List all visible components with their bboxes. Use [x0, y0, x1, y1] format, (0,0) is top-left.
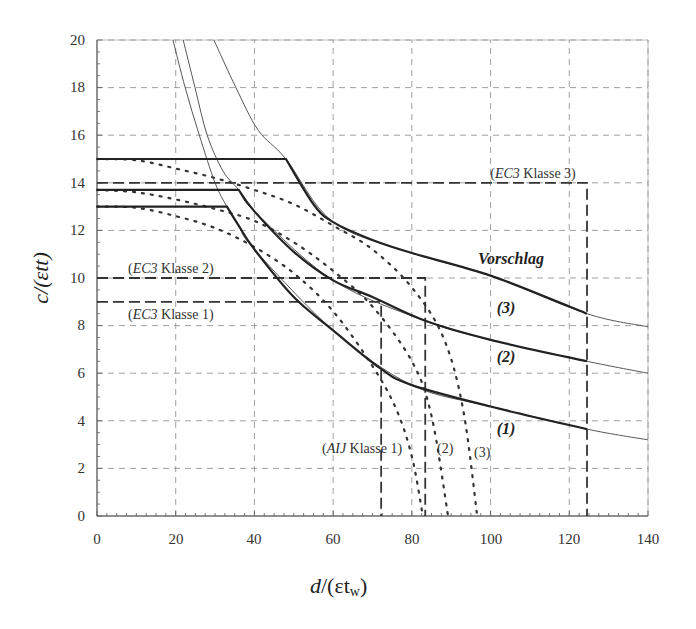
- aij-curves: [97, 159, 477, 516]
- y-tick-18: 18: [70, 79, 85, 95]
- x-tick-20: 20: [169, 531, 184, 547]
- x-tick-labels: 0 20 40 60 80 100 120 140: [93, 531, 659, 547]
- series-thin-curve-1-extension: [173, 40, 648, 440]
- ec3-rest: Klasse 3): [520, 166, 576, 182]
- x-tick-80: 80: [405, 531, 420, 547]
- annotation-aij-3: (3): [474, 445, 491, 461]
- label-curve-2: (2): [497, 348, 516, 366]
- x-tick-120: 120: [558, 531, 581, 547]
- label-curve-1: (1): [497, 420, 516, 438]
- x-tick-60: 60: [326, 531, 341, 547]
- x-axis-label-close: ): [360, 573, 367, 598]
- chart: 0 2 4 6 8 10 12 14 16 18 20 0 20 40 60 8…: [0, 0, 696, 629]
- ec3-name: EC3: [494, 166, 520, 181]
- label-curve-3: (3): [497, 299, 516, 317]
- aij-name: AIJ: [326, 441, 347, 456]
- y-tick-12: 12: [70, 222, 85, 238]
- y-tick-16: 16: [70, 127, 86, 143]
- series-aij-klasse-1: [97, 207, 423, 516]
- series-thin-curve-2-extension: [183, 40, 648, 373]
- annotation-ec3-klasse-3: (EC3 Klasse 3): [490, 166, 576, 182]
- y-axis-label-var: c: [28, 294, 53, 304]
- y-axis-label: c/(εtt): [28, 252, 53, 303]
- x-tick-0: 0: [93, 531, 101, 547]
- series-aij-2: [97, 190, 448, 516]
- annotation-aij-klasse-1: (AIJ Klasse 1): [322, 441, 402, 457]
- aij-rest: Klasse 1): [346, 441, 402, 457]
- ec3-rest: Klasse 2): [158, 261, 214, 277]
- y-tick-10: 10: [70, 270, 85, 286]
- x-axis-label-rest: /(εt: [321, 573, 350, 598]
- x-axis-label: d/(εtw): [310, 573, 367, 599]
- y-tick-labels: 0 2 4 6 8 10 12 14 16 18 20: [70, 32, 86, 524]
- y-axis-label-rest: /(εtt): [28, 252, 53, 296]
- annotation-vorschlag: Vorschlag: [478, 250, 544, 268]
- y-tick-0: 0: [78, 508, 86, 524]
- y-tick-8: 8: [78, 317, 86, 333]
- x-tick-100: 100: [480, 531, 503, 547]
- x-tick-140: 140: [637, 531, 660, 547]
- annotation-ec3-klasse-2: (EC3 Klasse 2): [128, 261, 214, 277]
- series-aij-3: [97, 159, 477, 516]
- thin-curves: [173, 40, 648, 440]
- y-tick-14: 14: [70, 175, 86, 191]
- y-tick-4: 4: [78, 413, 86, 429]
- y-tick-6: 6: [78, 365, 86, 381]
- y-tick-20: 20: [70, 32, 85, 48]
- x-tick-40: 40: [247, 531, 262, 547]
- ec3-name: EC3: [132, 261, 158, 276]
- ec3-rest: Klasse 1): [158, 307, 214, 323]
- ec3-name: EC3: [132, 307, 158, 322]
- vorschlag-curves: [97, 159, 587, 429]
- annotation-ec3-klasse-1: (EC3 Klasse 1): [128, 307, 214, 323]
- y-tick-2: 2: [78, 460, 86, 476]
- annotation-aij-2: (2): [437, 441, 454, 457]
